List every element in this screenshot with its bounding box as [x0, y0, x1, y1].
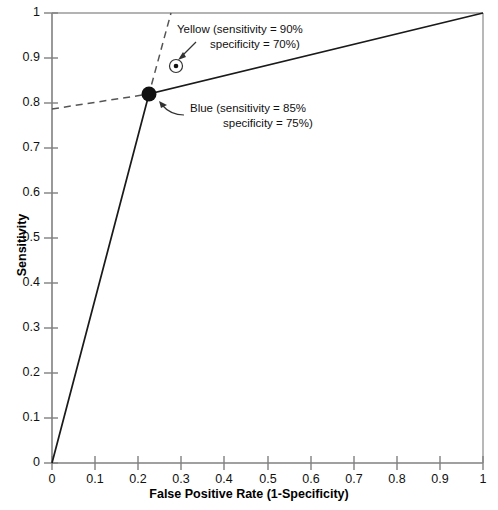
blue-roc-curve — [52, 13, 483, 463]
x-tick-label-0.5: 0.5 — [248, 472, 288, 486]
blue-annotation-arrow — [159, 101, 184, 115]
roc-chart: 0 0.1 0.2 0.3 0.4 0.5 0.6 0.7 0.8 0.9 1 … — [0, 0, 498, 510]
x-tick-label-0.6: 0.6 — [291, 472, 331, 486]
x-tick-label-1: 1 — [463, 472, 498, 486]
x-tick-label-0.2: 0.2 — [118, 472, 158, 486]
y-tick-label-0: 0 — [2, 455, 40, 469]
x-tick-label-0.4: 0.4 — [204, 472, 244, 486]
blue-operating-point-marker — [142, 87, 157, 102]
y-axis-title: Sensitivity — [15, 185, 29, 305]
blue-annotation: Blue (sensitivity = 85% specificity = 75… — [190, 101, 313, 130]
x-tick-label-0.8: 0.8 — [377, 472, 417, 486]
x-tick-label-0.3: 0.3 — [161, 472, 201, 486]
y-tick-label-0.8: 0.8 — [2, 95, 40, 109]
y-tick-label-0.3: 0.3 — [2, 320, 40, 334]
y-axis-ticks — [44, 13, 58, 463]
blue-annotation-line1: Blue (sensitivity = 85% — [190, 102, 306, 114]
x-tick-label-0: 0 — [32, 472, 72, 486]
yellow-annotation-line2: specificity = 70%) — [177, 37, 303, 52]
yellow-annotation: Yellow (sensitivity = 90% specificity = … — [177, 22, 303, 51]
yellow-annotation-line1: Yellow (sensitivity = 90% — [177, 23, 303, 35]
y-tick-label-0.1: 0.1 — [2, 410, 40, 424]
y-tick-label-1: 1 — [2, 5, 40, 19]
y-tick-label-0.9: 0.9 — [2, 50, 40, 64]
x-tick-label-0.1: 0.1 — [75, 472, 115, 486]
x-tick-label-0.7: 0.7 — [334, 472, 374, 486]
blue-annotation-line2: specificity = 75%) — [190, 116, 313, 131]
x-axis-title: False Positive Rate (1-Specificity) — [0, 487, 498, 501]
axis-frame — [52, 13, 483, 463]
y-tick-label-0.7: 0.7 — [2, 140, 40, 154]
x-tick-label-0.9: 0.9 — [420, 472, 460, 486]
roc-plot-area — [0, 0, 498, 510]
y-tick-label-0.2: 0.2 — [2, 365, 40, 379]
yellow-operating-point-marker — [170, 60, 183, 73]
